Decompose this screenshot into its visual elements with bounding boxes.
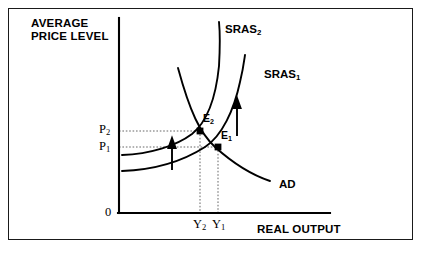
tick-label-y2: Y2 [193, 217, 206, 231]
y-axis-title: AVERAGE PRICE LEVEL [31, 17, 109, 43]
curve-label-ad: AD [279, 178, 296, 191]
curve-label-sras2: SRAS2 [225, 23, 261, 36]
diagram-canvas: AVERAGE PRICE LEVEL SRAS2 SRAS1 AD E2 E1… [0, 0, 423, 254]
equilibrium-label-e1: E1 [221, 130, 232, 142]
origin-label: 0 [105, 205, 111, 219]
curve-label-sras1: SRAS1 [264, 68, 300, 81]
arrow-shift-left-head [168, 138, 175, 148]
x-axis-title: REAL OUTPUT [257, 223, 341, 236]
guide-lines [119, 131, 218, 213]
tick-label-p2: P2 [99, 122, 110, 136]
tick-label-y1: Y1 [212, 217, 225, 231]
point-marker-e2 [197, 128, 204, 135]
y-axis-title-line2: PRICE LEVEL [31, 30, 109, 43]
point-marker-e1 [215, 144, 222, 151]
y-axis-title-line1: AVERAGE [31, 17, 109, 30]
equilibrium-label-e2: E2 [203, 113, 214, 125]
tick-label-p1: P1 [99, 139, 110, 153]
axes [118, 18, 330, 213]
